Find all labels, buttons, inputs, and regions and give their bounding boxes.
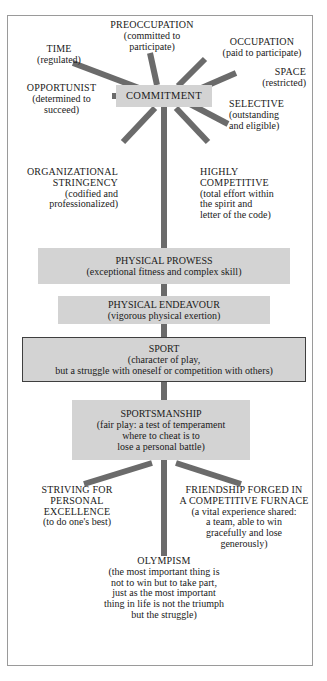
node-sport-paren-1: (character of play, — [128, 354, 200, 365]
spoke-opportunist-paren-2: succeed) — [10, 105, 113, 116]
node-sport-caption: SPORT — [149, 343, 180, 354]
spoke-time-paren: (regulated) — [16, 55, 102, 66]
spoke-preoccupation-paren-1: (committed to — [92, 31, 212, 42]
node-sport-paren-2: but a struggle with oneself or competiti… — [55, 365, 273, 376]
spoke-space[interactable]: SPACE (restricted) — [221, 67, 306, 89]
spoke-selective-paren-2: and eligible) — [229, 121, 311, 132]
spoke-line-preoccupation — [150, 53, 157, 85]
spoke-occupation-paren: (paid to participate) — [203, 48, 321, 59]
spoke-occupation[interactable]: OCCUPATION (paid to participate) — [203, 37, 321, 59]
node-olympism[interactable]: OLYMPISM (the most important thing is no… — [38, 556, 290, 621]
spoke-org-stringency-paren-2: professionalized) — [10, 199, 118, 210]
branch-striving-for-personal-excellence[interactable]: STRIVING FOR PERSONAL EXCELLENCE (to do … — [12, 485, 142, 528]
branch-friendship-forged[interactable]: FRIENDSHIP FORGED IN A COMPETITIVE FURNA… — [173, 485, 315, 550]
spoke-line-occupation — [178, 59, 205, 86]
spoke-opportunist[interactable]: OPPORTUNIST (determined to succeed) — [10, 83, 113, 115]
node-olympism-paren-5: but the struggle) — [38, 610, 290, 621]
node-physical-prowess[interactable]: PHYSICAL PROWESS (exceptional fitness an… — [38, 248, 290, 284]
node-sportsmanship-paren-2: where to cheat is to — [122, 430, 200, 441]
branch-line-friendship — [176, 463, 241, 484]
node-sportsmanship-paren-1: (fair play: a test of temperament — [97, 419, 226, 430]
spoke-highly-competitive[interactable]: HIGHLY COMPETITIVE (total effort within … — [200, 167, 312, 221]
branch-line-striving — [84, 463, 152, 484]
node-physical-endeavour[interactable]: PHYSICAL ENDEAVOUR (vigorous physical ex… — [58, 296, 270, 324]
node-physical-prowess-paren: (exceptional fitness and complex skill) — [87, 266, 242, 277]
spoke-highly-competitive-paren-3: letter of the code) — [200, 210, 312, 221]
spoke-preoccupation-paren-2: participate) — [92, 42, 212, 53]
branch-striving-paren: (to do one's best) — [12, 517, 142, 528]
node-commitment[interactable]: COMMITMENT — [116, 85, 212, 107]
node-sport[interactable]: SPORT (character of play, but a struggle… — [22, 337, 306, 382]
node-commitment-label: COMMITMENT — [126, 90, 202, 102]
spoke-time[interactable]: TIME (regulated) — [16, 44, 102, 66]
branch-friendship-caption-2: A COMPETITIVE FURNACE — [173, 496, 315, 507]
spoke-line-selective — [190, 104, 228, 124]
node-sportsmanship-paren-3: lose a personal battle) — [117, 441, 204, 452]
node-sportsmanship-caption: SPORTSMANSHIP — [120, 408, 201, 419]
spoke-space-paren: (restricted) — [221, 78, 306, 89]
spoke-line-org-stringency — [123, 108, 155, 142]
spoke-selective-paren-1: (outstanding — [229, 110, 311, 121]
node-olympism-paren-1: (the most important thing is — [38, 567, 290, 578]
node-physical-prowess-caption: PHYSICAL PROWESS — [115, 255, 212, 266]
spoke-opportunist-paren-1: (determined to — [10, 94, 113, 105]
spoke-highly-competitive-caption-2: COMPETITIVE — [200, 178, 312, 189]
node-physical-endeavour-caption: PHYSICAL ENDEAVOUR — [108, 299, 220, 310]
spoke-organizational-stringency[interactable]: ORGANIZATIONAL STRINGENCY (codified and … — [10, 167, 118, 210]
branch-friendship-paren-4: generously) — [173, 539, 315, 550]
node-physical-endeavour-paren: (vigorous physical exertion) — [108, 310, 221, 321]
spoke-selective[interactable]: SELECTIVE (outstanding and eligible) — [229, 99, 311, 131]
diagram-canvas: COMMITMENT TIME (regulated) PREOCCUPATIO… — [0, 0, 327, 681]
spoke-preoccupation[interactable]: PREOCCUPATION (committed to participate) — [92, 20, 212, 52]
branch-striving-caption-2: PERSONAL — [12, 496, 142, 507]
node-sportsmanship[interactable]: SPORTSMANSHIP (fair play: a test of temp… — [72, 400, 250, 460]
spoke-org-stringency-caption-2: STRINGENCY — [10, 178, 118, 189]
